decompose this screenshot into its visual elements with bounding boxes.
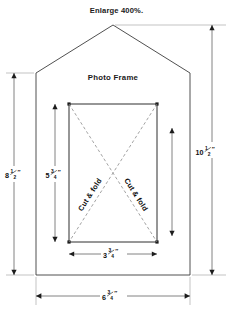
dim-frac-den-8half: 2 <box>13 175 16 180</box>
dim-frac-den-5threequarter: 4 <box>54 175 57 180</box>
dim-unit-3threequarter: ″ <box>115 247 118 254</box>
dim-unit-5threequarter: ″ <box>58 168 61 175</box>
dim-unit-10half: ″ <box>212 145 215 152</box>
page-title: Enlarge 400%. <box>90 6 143 15</box>
photo-frame-diagram: Enlarge 400%. Photo Frame Cut & fold Cut… <box>0 0 233 312</box>
dim-unit-6threequarter: ″ <box>114 289 117 296</box>
dim-unit-8half: ″ <box>17 168 20 175</box>
dim-frac-den-3threequarter: 4 <box>111 254 114 259</box>
dim-frac-den-6threequarter: 4 <box>110 296 113 301</box>
arrow-left-down <box>11 270 16 275</box>
arrow-right-up <box>209 25 214 30</box>
dim-value-10half: 10 <box>196 148 204 157</box>
frame-caption: Photo Frame <box>88 73 139 82</box>
dim-value-3threequarter: 3 <box>103 251 107 260</box>
dim-value-5threequarter: 5 <box>46 171 50 180</box>
dim-frac-den-10half: 2 <box>208 152 211 157</box>
arrow-overall-right <box>185 293 190 298</box>
arrow-left-up <box>11 73 16 78</box>
arrow-right-down <box>209 270 214 275</box>
frame-outline <box>36 25 190 275</box>
arrow-overall-left <box>36 293 41 298</box>
dim-value-8half: 8 <box>5 171 9 180</box>
dim-value-6threequarter: 6 <box>102 293 106 302</box>
diagram-page: Enlarge 400%. Photo Frame Cut & fold Cut… <box>0 0 233 312</box>
